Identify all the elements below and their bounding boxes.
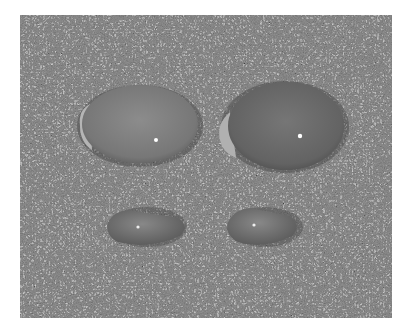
sand-specks: [20, 15, 392, 318]
highlight: [298, 134, 302, 138]
highlight: [252, 223, 255, 226]
highlight: [154, 138, 158, 142]
highlight: [136, 225, 139, 228]
large-left-shell: [77, 85, 203, 167]
shells-photo: Grayscale photograph of four cowrie shel…: [20, 15, 392, 318]
small-left-shell: [107, 207, 187, 247]
small-right-shell: [227, 207, 303, 247]
photo-canvas: [20, 15, 392, 318]
